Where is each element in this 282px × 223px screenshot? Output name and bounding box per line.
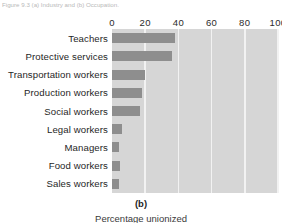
plot-area — [112, 29, 278, 193]
category-label-production-workers: Production workers — [0, 87, 108, 98]
bar-food-workers — [112, 161, 120, 171]
x-axis-title: Percentage unionized — [0, 213, 282, 223]
category-label-food-workers: Food workers — [0, 160, 108, 171]
bar-row — [112, 157, 278, 175]
bar-teachers — [112, 33, 175, 43]
bar-production-workers — [112, 88, 142, 98]
category-label-teachers: Teachers — [0, 33, 108, 44]
bar-row — [112, 47, 278, 65]
x-tick-label-0: 0 — [109, 16, 115, 29]
x-tick-label-60: 60 — [206, 16, 217, 29]
bar-protective-services — [112, 51, 172, 61]
x-tick-label-100: 100 — [269, 16, 282, 29]
y-axis-category-labels: TeachersProtective servicesTransportatio… — [0, 29, 108, 193]
bar-managers — [112, 142, 119, 152]
bar-row — [112, 102, 278, 120]
bar-row — [112, 65, 278, 83]
x-tick-label-80: 80 — [239, 16, 250, 29]
x-tick-label-40: 40 — [173, 16, 184, 29]
category-label-transportation-workers: Transportation workers — [0, 69, 108, 80]
bar-transportation-workers — [112, 70, 145, 80]
bar-row — [112, 175, 278, 193]
category-label-protective-services: Protective services — [0, 51, 108, 62]
bar-row — [112, 84, 278, 102]
category-label-social-workers: Social workers — [0, 106, 108, 117]
category-label-legal-workers: Legal workers — [0, 124, 108, 135]
bar-legal-workers — [112, 124, 122, 134]
bar-sales-workers — [112, 179, 119, 189]
panel-label: (b) — [0, 198, 282, 210]
bar-row — [112, 120, 278, 138]
bar-chart: 020406080100 TeachersProtective services… — [0, 0, 282, 223]
bars-layer — [112, 29, 278, 193]
bar-social-workers — [112, 106, 140, 116]
bar-row — [112, 29, 278, 47]
category-label-managers: Managers — [0, 142, 108, 153]
bar-row — [112, 138, 278, 156]
x-tick-label-20: 20 — [140, 16, 151, 29]
category-label-sales-workers: Sales workers — [0, 178, 108, 189]
x-axis-tick-labels: 020406080100 — [112, 16, 282, 29]
